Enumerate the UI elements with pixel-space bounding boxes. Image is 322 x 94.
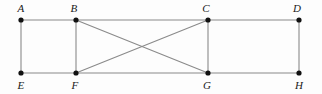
vertex-label-e: E: [18, 80, 25, 91]
vertex-label-f: F: [72, 80, 79, 91]
geometry-figure: ABCDEFGH: [0, 0, 322, 94]
vertex-dot-e: [18, 70, 23, 75]
vertex-label-h: H: [295, 80, 303, 91]
vertices-group: [18, 17, 301, 75]
vertex-dot-c: [205, 17, 210, 22]
edges-group: [21, 20, 299, 73]
figure-canvas: [0, 0, 322, 94]
vertex-dot-g: [205, 70, 210, 75]
vertex-label-g: G: [203, 80, 211, 91]
vertex-dot-d: [296, 17, 301, 22]
vertex-label-b: B: [71, 3, 78, 14]
vertex-dot-f: [73, 70, 78, 75]
vertex-label-c: C: [202, 3, 210, 14]
vertex-dot-h: [296, 70, 301, 75]
vertex-dot-a: [18, 17, 23, 22]
vertex-label-d: D: [293, 3, 301, 14]
vertex-label-a: A: [18, 3, 25, 14]
vertex-dot-b: [73, 17, 78, 22]
